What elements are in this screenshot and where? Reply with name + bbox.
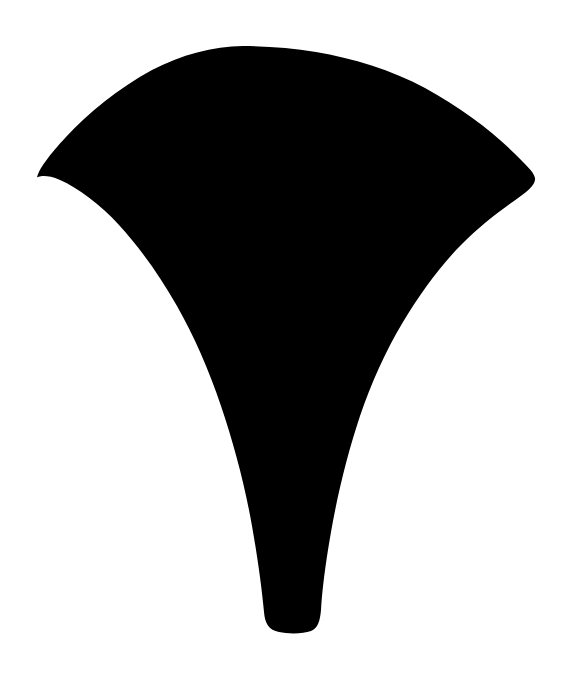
- image-canvas: [0, 0, 571, 677]
- ginkgo-leaf-silhouette-svg: [0, 0, 571, 677]
